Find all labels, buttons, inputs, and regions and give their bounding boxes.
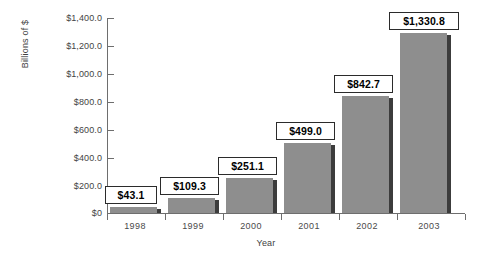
bar-shadow-2002: [389, 98, 393, 213]
bar-2001: [284, 143, 331, 213]
y-tick: [108, 74, 114, 75]
bar-chart: Billions of $ Year $1,400.0 $1,200.0 $1,…: [0, 0, 490, 263]
data-label-1999: $109.3: [160, 177, 219, 195]
x-axis-label-2002: 2002: [338, 221, 396, 231]
y-axis-label: $1,400.0: [10, 13, 102, 23]
x-tick: [397, 214, 398, 220]
y-tick: [108, 102, 114, 103]
y-axis-label: $400.0: [10, 153, 102, 163]
y-axis-label: $1,000.0: [10, 69, 102, 79]
data-label-2000: $251.1: [218, 157, 277, 175]
x-tick: [339, 214, 340, 220]
bar-2000: [226, 178, 273, 213]
y-tick: [108, 213, 114, 214]
bar-shadow-2003: [447, 35, 451, 213]
bar-1999: [168, 198, 215, 213]
x-axis-label-2001: 2001: [280, 221, 338, 231]
bar-2003: [400, 33, 447, 213]
data-label-2002: $842.7: [334, 75, 393, 93]
x-axis-label-1999: 1999: [164, 221, 222, 231]
y-tick: [108, 130, 114, 131]
bar-2002: [342, 96, 389, 213]
x-axis-label-1998: 1998: [106, 221, 164, 231]
x-axis-label-2000: 2000: [222, 221, 280, 231]
data-label-2001: $499.0: [276, 122, 335, 140]
y-axis-label: $200.0: [10, 181, 102, 191]
y-axis-label: $600.0: [10, 125, 102, 135]
y-tick: [108, 46, 114, 47]
bar-shadow-2000: [273, 180, 277, 213]
x-tick: [465, 214, 466, 220]
y-axis-label: $800.0: [10, 97, 102, 107]
x-tick: [165, 214, 166, 220]
bar-shadow-1999: [215, 200, 219, 213]
x-tick: [107, 214, 108, 220]
data-label-2003: $1,330.8: [389, 12, 459, 30]
y-tick: [108, 158, 114, 159]
bar-shadow-2001: [331, 145, 335, 213]
x-axis-label-2003: 2003: [400, 221, 458, 231]
y-tick: [108, 18, 114, 19]
y-axis-label: $0: [10, 208, 102, 218]
x-tick: [281, 214, 282, 220]
data-label-1998: $43.1: [105, 186, 157, 204]
x-axis-line: [107, 213, 465, 214]
y-axis-line: [107, 18, 108, 214]
bar-shadow-1998: [157, 209, 161, 213]
x-axis-title: Year: [236, 238, 296, 248]
y-axis-label: $1,200.0: [10, 41, 102, 51]
bar-1998: [110, 207, 157, 213]
x-tick: [223, 214, 224, 220]
